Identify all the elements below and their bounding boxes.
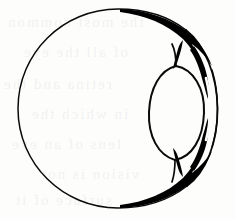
eye-diagram-figure: the most common of all the eye retina an… [0, 0, 235, 219]
eye-anatomy-drawing [0, 0, 235, 219]
cornea-limbus-junction-bottom [172, 160, 175, 182]
cornea-outline [149, 66, 204, 160]
cornea-limbus-junction-top [172, 44, 176, 66]
